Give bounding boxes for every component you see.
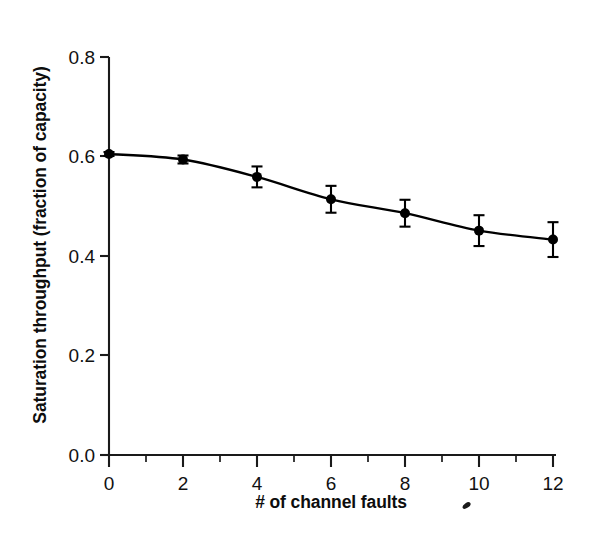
y-tick-label: 0.6 <box>69 146 95 167</box>
data-point-marker <box>400 208 410 218</box>
x-axis-ticks <box>109 455 553 467</box>
x-axis-title: # of channel faults <box>255 492 407 513</box>
x-axis-title-wrap: # of channel faults <box>108 489 554 515</box>
data-point-group <box>548 222 559 257</box>
y-axis-ticks <box>100 57 109 455</box>
chart-figure: 0.8 0.6 0.4 0.2 0.0 0 2 4 6 8 10 12 Satu… <box>0 0 596 544</box>
data-point-marker <box>548 235 558 245</box>
y-tick-label: 0.8 <box>69 47 95 68</box>
y-tick-label: 0.0 <box>69 445 95 466</box>
y-tick-labels: 0.8 0.6 0.4 0.2 0.0 <box>69 47 96 466</box>
data-point-group <box>400 200 411 227</box>
data-point-group <box>178 154 189 164</box>
y-axis-title: Saturation throughput (fraction of capac… <box>30 66 51 423</box>
data-point-group <box>104 149 115 159</box>
data-point-marker <box>326 194 336 204</box>
axis-lines <box>104 57 556 456</box>
y-axis-title-wrap: Saturation throughput (fraction of capac… <box>23 21 57 469</box>
line-chart-plot: 0.8 0.6 0.4 0.2 0.0 0 2 4 6 8 10 12 <box>0 0 596 544</box>
data-series-layer <box>104 149 559 257</box>
y-tick-label: 0.4 <box>69 246 96 267</box>
data-point-group <box>474 215 485 246</box>
data-point-group <box>326 186 337 213</box>
data-point-marker <box>474 226 484 236</box>
data-point-marker <box>252 172 262 182</box>
data-point-group <box>252 166 263 187</box>
data-point-marker <box>178 154 188 164</box>
y-tick-label: 0.2 <box>69 345 95 366</box>
data-point-marker <box>104 149 114 159</box>
